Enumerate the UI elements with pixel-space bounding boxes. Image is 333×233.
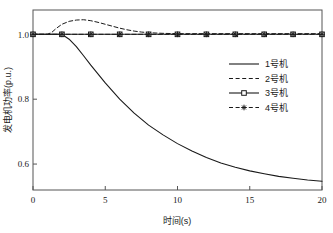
chart-canvas: 05101520 0.60.81.0 时间(s) 发电机功率(p.u.) 1号机…: [0, 0, 333, 233]
y-tick-label: 1.0: [18, 30, 30, 40]
series-marker-asterisk: [319, 32, 325, 38]
x-tick-label: 20: [318, 195, 328, 205]
x-tick-label: 15: [245, 195, 255, 205]
series-marker-square: [242, 91, 247, 96]
y-tick-label: 0.8: [18, 94, 30, 104]
x-tick-label: 5: [103, 195, 108, 205]
series-marker-asterisk: [59, 32, 65, 38]
series-marker-asterisk: [30, 32, 36, 38]
series-marker-asterisk: [175, 32, 181, 38]
series-marker-asterisk: [204, 32, 210, 38]
series-marker-asterisk: [146, 32, 152, 38]
legend-label: 2号机: [265, 73, 288, 84]
x-axis-title: 时间(s): [163, 215, 192, 226]
x-axis-ticks: 05101520: [31, 186, 327, 205]
x-tick-label: 0: [31, 195, 36, 205]
series-marker-asterisk: [88, 32, 94, 38]
chart-legend: 1号机2号机3号机4号机: [229, 58, 288, 113]
y-axis-title: 发电机功率(p.u.): [2, 67, 13, 133]
x-tick-label: 10: [173, 195, 183, 205]
series-marker-asterisk: [241, 105, 247, 111]
chart-figure: 05101520 0.60.81.0 时间(s) 发电机功率(p.u.) 1号机…: [0, 0, 333, 233]
series-marker-asterisk: [117, 32, 123, 38]
legend-label: 1号机: [265, 58, 288, 69]
data-series: [30, 32, 325, 38]
y-axis-ticks: 0.60.81.0: [18, 30, 37, 170]
series-marker-asterisk: [261, 32, 267, 38]
data-series-layer: [30, 20, 325, 182]
y-tick-label: 0.6: [18, 159, 30, 169]
legend-label: 4号机: [265, 102, 288, 113]
legend-label: 3号机: [265, 87, 288, 98]
